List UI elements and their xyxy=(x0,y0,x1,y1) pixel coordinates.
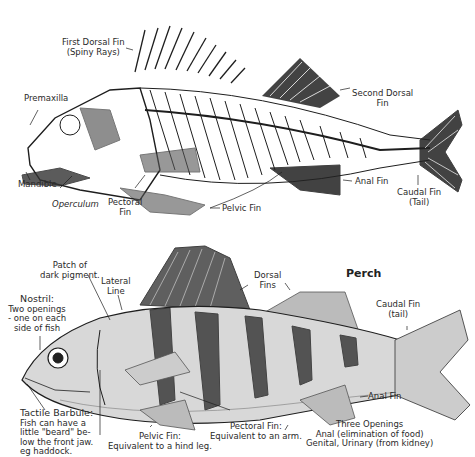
label-line: Fins xyxy=(254,281,281,291)
label-mandible: Mandible xyxy=(18,180,57,190)
perch-title: Perch xyxy=(346,267,381,280)
label-pectoral-fin-perch: Pectoral Fin: Equivalent to an arm. xyxy=(210,422,302,441)
label-dorsal-fins: Dorsal Fins xyxy=(254,271,281,290)
label-line: Fin xyxy=(108,208,142,218)
label-pelvic-fin: Pelvic Fin xyxy=(222,204,261,214)
label-line: Nostril: xyxy=(8,294,66,305)
label-tactile-barbule: Tactile Barbule: Fish can have a little … xyxy=(20,408,93,457)
label-line: (Tail) xyxy=(397,198,441,208)
label-line: Equivalent to a hind leg. xyxy=(108,442,212,452)
label-lateral-line: Lateral Line xyxy=(101,277,131,296)
label-line: (Spiny Rays) xyxy=(62,48,125,58)
label-pelvic-fin-perch: Pelvic Fin: Equivalent to a hind leg. xyxy=(108,432,212,451)
label-caudal-fin: Caudal Fin (Tail) xyxy=(397,188,441,207)
label-nostril: Nostril: Two openings - one on each side… xyxy=(8,294,66,333)
label-line: Tactile Barbule: xyxy=(20,408,93,419)
label-line: dark pigment. xyxy=(40,271,100,281)
label-anal-fin: Anal Fin xyxy=(355,177,389,187)
label-second-dorsal-fin: Second Dorsal Fin xyxy=(352,89,413,108)
label-line: side of fish xyxy=(8,324,66,334)
label-line: eg haddock. xyxy=(20,447,93,457)
label-premaxilla: Premaxilla xyxy=(24,94,68,104)
label-first-dorsal-fin: First Dorsal Fin (Spiny Rays) xyxy=(62,38,125,57)
label-pectoral-fin: Pectoral Fin xyxy=(108,198,142,217)
label-three-openings: Three Openings Anal (elimination of food… xyxy=(306,420,433,449)
label-dark-pigment: Patch of dark pigment. xyxy=(40,261,100,280)
label-line: Line xyxy=(101,287,131,297)
label-line: (tail) xyxy=(376,310,420,320)
label-line: Genital, Urinary (from kidney) xyxy=(306,439,433,449)
label-anal-fin-perch: Anal Fin xyxy=(368,392,402,402)
label-operculum: Operculum xyxy=(52,200,99,210)
label-line: Equivalent to an arm. xyxy=(210,432,302,442)
label-caudal-fin-tail: Caudal Fin (tail) xyxy=(376,300,420,319)
label-line: Fin xyxy=(352,99,413,109)
